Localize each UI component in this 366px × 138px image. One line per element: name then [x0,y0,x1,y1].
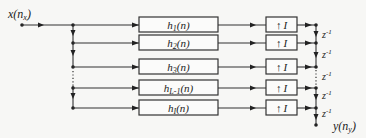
arrow-icon [305,65,312,70]
arrow-icon [305,41,312,46]
filter-label: h3(n) [167,61,190,75]
sum-node [314,86,318,90]
down-arrow-icon [71,50,76,56]
output-node [314,123,318,127]
delay-label: z-1 [321,70,332,82]
down-arrow-icon [71,30,76,36]
delay-label: z-1 [321,28,332,40]
sum-node [314,65,318,69]
filter-label: h1(n) [167,19,190,33]
down-arrow-icon [71,93,76,99]
down-arrow-icon [314,94,319,100]
output-label: y(ny) [332,119,356,134]
upsampler-box [266,17,297,32]
arrow-icon [250,86,256,91]
delay-label: z-1 [321,48,332,60]
branch-5: hI(n) ↑I [73,100,316,116]
arrow-icon [305,23,312,28]
arrow-icon [250,41,256,46]
delay-label: z-1 [321,89,332,101]
arrow-icon [305,106,312,111]
branch-2: h2(n) ↑I [73,35,316,51]
arrow-icon [250,23,256,28]
filter-label: h2(n) [167,37,190,51]
arrow-icon [132,23,139,28]
branch-4: hL-1(n) ↑I [73,80,316,96]
sum-node [314,41,318,45]
branch-3: h3(n) ↑I [73,59,316,75]
upsampler-box [266,80,297,95]
input-arrow-icon [38,23,44,28]
down-arrow-icon [314,114,319,120]
arrow-icon [250,65,256,70]
sum-node [314,106,318,110]
branch-1: h1(n) ↑I [73,17,316,33]
arrow-icon [250,106,256,111]
arrow-icon [132,106,139,111]
upsampler-box [266,35,297,50]
filter-label: hI(n) [168,102,189,116]
polyphase-diagram: x(nx) h1(n) ↑I h2(n) ↑I [0,0,366,138]
down-arrow-icon [314,31,319,37]
arrow-icon [132,41,139,46]
arrow-icon [132,65,139,70]
input-label: x(nx) [7,7,31,22]
sum-node [314,23,318,27]
arrow-icon [305,86,312,91]
upsampler-box [266,100,297,115]
down-arrow-icon [314,52,319,58]
delay-label: z-1 [321,107,332,119]
arrow-icon [132,86,139,91]
upsampler-box [266,59,297,74]
